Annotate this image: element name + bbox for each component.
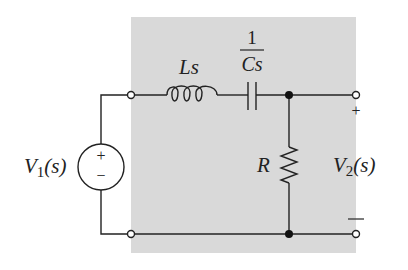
output-label: V2(s) — [333, 153, 376, 179]
inductor-label: Ls — [178, 55, 199, 79]
output-plus-sign: + — [351, 102, 360, 119]
junction-bottom — [285, 230, 293, 238]
source-label: V1(s) — [24, 154, 67, 180]
source-plus-sign: + — [96, 147, 105, 164]
source-minus-sign: − — [96, 167, 105, 184]
terminal-output-bottom — [353, 231, 360, 238]
terminal-output-top — [353, 92, 360, 99]
terminal-input-bottom — [128, 231, 135, 238]
terminal-input-top — [128, 92, 135, 99]
junction-top — [285, 91, 293, 99]
capacitor-label-numerator: 1 — [247, 27, 257, 48]
resistor-label: R — [256, 153, 270, 177]
circuit-diagram: + − V1(s) Ls 1 Cs R + V2(s) — [0, 0, 408, 270]
wire-left-bottom — [101, 190, 131, 234]
capacitor-label-denominator: Cs — [241, 53, 262, 75]
wire-left-top — [101, 95, 131, 144]
